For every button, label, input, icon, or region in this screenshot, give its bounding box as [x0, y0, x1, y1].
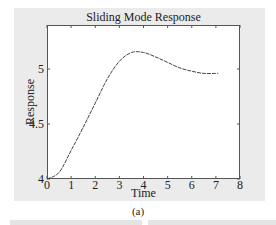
- bottom-bar-left: [10, 220, 142, 225]
- y-tick-label: 4.5: [14, 117, 44, 132]
- x-tick-label: 2: [92, 178, 98, 193]
- figure-caption: (a): [0, 205, 276, 217]
- x-tick-label: 6: [189, 178, 195, 193]
- series-line: [47, 52, 218, 179]
- y-tick-label: 4: [14, 172, 44, 187]
- x-tick-label: 1: [68, 178, 74, 193]
- y-tick-label: 5: [14, 62, 44, 77]
- x-tick-label: 8: [237, 178, 243, 193]
- bottom-bar-right: [148, 220, 276, 225]
- x-tick-label: 4: [141, 178, 147, 193]
- x-tick-label: 3: [116, 178, 122, 193]
- x-tick-label: 5: [165, 178, 171, 193]
- x-tick-label: 7: [213, 178, 219, 193]
- x-tick-label: 0: [44, 178, 50, 193]
